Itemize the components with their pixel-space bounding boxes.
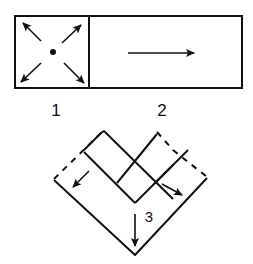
diagram-canvas: 1 2 3: [0, 0, 253, 264]
outer-v-edge: [54, 178, 207, 255]
step-1-2-strip: [15, 16, 242, 88]
step-1-label: 1: [51, 101, 60, 120]
step-3-v-fold: [54, 131, 207, 255]
arrow-up-right-icon: [62, 25, 81, 43]
step-3-label: 3: [145, 208, 153, 225]
strip-cross-lower: [155, 165, 173, 183]
left-strip-inner: [84, 152, 135, 203]
arrow-up-left-icon: [23, 23, 41, 41]
center-dot-icon: [50, 49, 56, 55]
right-dashed-edge: [157, 132, 207, 177]
arrow-down-right-icon-3: [162, 184, 182, 195]
step-2-label: 2: [157, 101, 166, 120]
right-strip-inner: [117, 134, 157, 183]
arrow-down-left-icon: [21, 63, 41, 82]
outer-rectangle: [15, 16, 242, 88]
step-1-square: [21, 23, 84, 83]
arrow-down-right-icon: [64, 63, 84, 83]
arrow-down-left-icon-3: [73, 171, 89, 187]
